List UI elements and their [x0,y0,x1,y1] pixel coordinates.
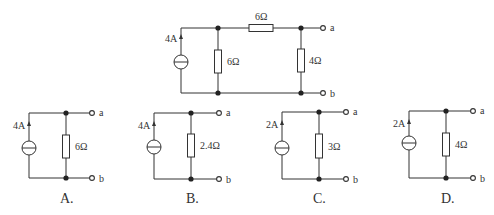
option-label[interactable]: D. [441,191,455,206]
terminal-b-label: b [330,88,335,99]
option-a-circuit: 4A 6Ω a b A. [13,107,104,206]
terminal-a-label: a [353,106,358,117]
junction-dot [215,25,220,30]
option-label[interactable]: B. [186,191,199,206]
resistor-label: 6Ω [255,11,267,22]
terminal-b [217,177,222,182]
resistor-icon [298,49,305,72]
terminal-b [344,177,349,182]
option-c-circuit: 2A 3Ω a b C. [266,106,358,206]
source-label: 4A [165,33,178,44]
arrow-up-icon [179,34,183,39]
terminal-b-label: b [226,174,231,185]
source-label: 4A [138,120,151,131]
terminal-b-label: b [353,174,358,185]
terminal-b [90,176,95,181]
resistor-label: 4Ω [455,139,467,150]
terminal-a [217,111,222,116]
terminal-b [471,176,476,181]
junction-dot [298,25,303,30]
resistor-label: 4Ω [309,55,321,66]
circuit-diagram: 4A 6Ω 6Ω 4Ω a b 4A [0,0,494,215]
resistor-label: 3Ω [328,141,340,152]
terminal-a [90,111,95,116]
terminal-a [344,110,349,115]
option-label[interactable]: A. [60,191,74,206]
terminal-a-label: a [330,22,335,33]
terminal-b-label: b [480,173,485,184]
terminal-b-label: b [99,173,104,184]
source-label: 2A [266,119,279,130]
resistor-icon [63,135,70,158]
junction-dot [215,90,220,95]
resistor-icon [215,50,222,73]
resistor-icon [443,133,450,156]
terminal-b [321,91,326,96]
option-b-circuit: 4A 2.4Ω a b B. [138,107,231,206]
junction-dot [298,90,303,95]
terminal-a [471,109,476,114]
resistor-icon [316,134,323,158]
option-label[interactable]: C. [313,191,326,206]
main-circuit: 4A 6Ω 6Ω 4Ω a b [165,11,335,99]
source-label: 2A [393,118,406,129]
resistor-label: 6Ω [227,56,239,67]
terminal-a [321,26,326,31]
resistor-icon [249,25,273,32]
resistor-icon [188,134,195,157]
terminal-a-label: a [480,105,485,116]
resistor-label: 2.4Ω [200,140,220,151]
terminal-a-label: a [226,107,231,118]
resistor-label: 6Ω [75,141,87,152]
terminal-a-label: a [99,107,104,118]
option-d-circuit: 2A 4Ω a b D. [393,105,485,206]
source-label: 4A [13,120,26,131]
